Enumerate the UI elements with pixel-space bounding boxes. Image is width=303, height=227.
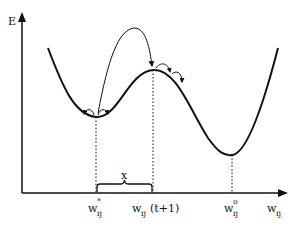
- label-local-min: w * ij: [88, 197, 102, 218]
- y-axis: [18, 12, 26, 193]
- x-axis-arrow-icon: [278, 189, 288, 197]
- x-axis-label: w ij: [267, 202, 281, 218]
- global-min-sub: ij: [233, 209, 238, 218]
- local-min-sub: ij: [97, 209, 102, 218]
- x-axis: [22, 189, 288, 197]
- y-axis-arrow-icon: [18, 12, 26, 22]
- brace-label: x: [121, 169, 128, 182]
- peak-suffix: (t+1): [150, 202, 179, 215]
- local-min-sup: *: [97, 197, 101, 206]
- peak-sub: ij: [141, 209, 146, 218]
- x-axis-label-sub: ij: [276, 209, 281, 218]
- global-min-sup: o: [233, 197, 238, 206]
- label-peak: w ij (t+1): [132, 202, 179, 218]
- jump-arrow-icon: [98, 28, 152, 113]
- energy-diagram: E x w * ij w ij (t+1) w o ij w ij: [0, 0, 303, 227]
- label-global-min: w o ij: [224, 197, 238, 218]
- y-axis-label: E: [8, 15, 16, 28]
